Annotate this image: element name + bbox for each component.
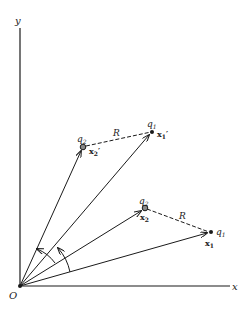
rotation-diagram: y x O q2 x2 q1 x1 R q2 x2′ q1 x1′ R (0, 0, 243, 312)
label-q2: q2 (139, 196, 149, 207)
origin-label: O (9, 290, 17, 301)
vector-x1 (20, 233, 207, 286)
y-axis-label: y (14, 15, 21, 26)
label-x2: x2 (140, 212, 149, 223)
separation-initial (147, 209, 209, 232)
charge-q1 (209, 230, 213, 234)
label-x2-prime: x2′ (89, 145, 100, 157)
charge-q2-prime (80, 144, 86, 150)
label-q1: q1 (216, 227, 226, 238)
charge-q1-prime (150, 130, 154, 134)
angle-arc-1 (58, 248, 70, 272)
label-q2-prime: q2 (77, 134, 87, 145)
x-axis-label: x (232, 281, 238, 292)
vector-x2-prime (20, 151, 81, 286)
vector-x1-prime (20, 135, 149, 286)
label-R-initial: R (178, 211, 186, 221)
vector-x2 (20, 211, 141, 286)
label-q1-prime: q1 (147, 119, 157, 130)
label-x1: x1 (205, 238, 214, 249)
label-R-rotated: R (112, 128, 120, 138)
label-x1-prime: x1′ (157, 128, 168, 140)
